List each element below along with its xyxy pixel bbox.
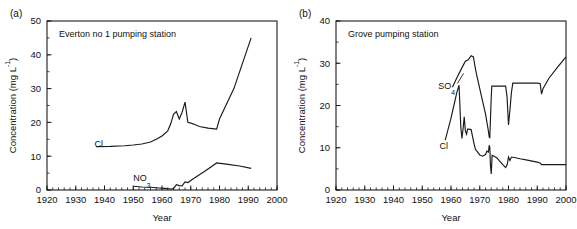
y-tick-label: 0	[36, 184, 41, 195]
y-tick-label: 20	[319, 100, 330, 111]
y-axis-title: Concentration (mg L-1)	[293, 58, 308, 153]
y-tick-label: 20	[30, 117, 41, 128]
panel-label-a: (a)	[10, 8, 22, 19]
y-tick-label: 50	[30, 15, 41, 26]
x-tick-label: 2000	[555, 194, 576, 205]
chart-svg-a: (a) 192019301940195019601970198019902000…	[0, 0, 288, 229]
plot-title: Grove pumping station	[348, 29, 439, 39]
chart-panel-b: (b) 192019301940195019601970198019902000…	[289, 0, 577, 229]
x-axis-title: Year	[152, 212, 171, 223]
x-tick-label: 1990	[238, 194, 259, 205]
x-tick-label: 1960	[151, 194, 172, 205]
series-line-NO3	[133, 163, 251, 189]
series-line-SO4	[452, 56, 566, 138]
axes-group-b: 1920193019401950196019701980199020000102…	[293, 15, 577, 223]
y-tick-label: 10	[319, 142, 330, 153]
y-tick-label: 0	[325, 184, 330, 195]
x-tick-label: 1930	[354, 194, 375, 205]
series-line-Cl	[96, 38, 251, 147]
x-tick-label: 1930	[65, 194, 86, 205]
y-tick-label: 40	[319, 15, 330, 26]
plot-frame	[336, 21, 566, 190]
plot-title: Everton no 1 pumping station	[59, 29, 176, 39]
x-tick-label: 2000	[266, 194, 287, 205]
y-tick-label: 40	[30, 49, 41, 60]
chart-svg-b: (b) 192019301940195019601970198019902000…	[289, 0, 577, 229]
x-tick-label: 1940	[94, 194, 115, 205]
x-tick-label: 1920	[36, 194, 57, 205]
x-tick-label: 1980	[498, 194, 519, 205]
series-label-Cl: Cl	[95, 139, 104, 149]
x-tick-label: 1990	[527, 194, 548, 205]
x-tick-label: 1970	[469, 194, 490, 205]
y-tick-label: 10	[30, 151, 41, 162]
chart-panel-a: (a) 192019301940195019601970198019902000…	[0, 0, 288, 229]
series-label-SO4: SO4	[438, 81, 455, 96]
annotations-group-b: Grove pumping stationSO4Cl	[348, 29, 464, 151]
x-tick-label: 1960	[440, 194, 461, 205]
x-tick-label: 1980	[209, 194, 230, 205]
x-tick-label: 1970	[180, 194, 201, 205]
axes-group-a: 1920193019401950196019701980199020000102…	[4, 15, 288, 223]
series-label-Cl: Cl	[440, 141, 449, 151]
figure-container: (a) 192019301940195019601970198019902000…	[0, 0, 577, 229]
y-tick-label: 30	[30, 83, 41, 94]
plot-frame	[47, 21, 277, 190]
panel-label-b: (b)	[299, 8, 311, 19]
series-line-Cl	[445, 85, 566, 174]
panel-a-label-group: (a)	[10, 8, 22, 19]
y-tick-label: 30	[319, 58, 330, 69]
series-group-a	[96, 38, 251, 189]
x-tick-label: 1950	[412, 194, 433, 205]
x-tick-label: 1920	[325, 194, 346, 205]
x-tick-label: 1940	[383, 194, 404, 205]
panel-b-label-group: (b)	[299, 8, 311, 19]
x-tick-label: 1950	[123, 194, 144, 205]
y-axis-title: Concentration (mg L-1)	[4, 58, 19, 153]
x-axis-title: Year	[441, 212, 460, 223]
annotations-group-a: Everton no 1 pumping stationClNO3	[59, 29, 176, 188]
